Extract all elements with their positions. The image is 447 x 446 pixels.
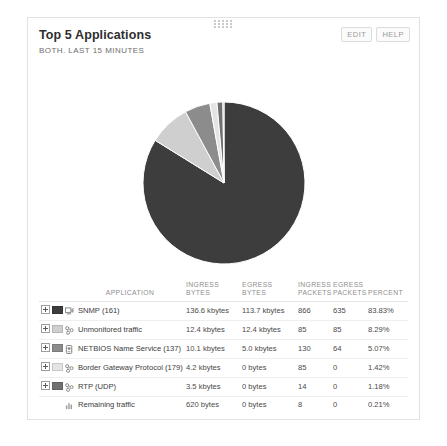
expand-icon[interactable] xyxy=(41,343,50,352)
row-egress-bytes: 12.4 kbytes xyxy=(240,321,296,340)
pie-chart[interactable] xyxy=(142,101,306,265)
row-application-name: SNMP (161) xyxy=(76,302,184,321)
table-row[interactable]: Remaining traffic620 bytes0 bytes800.21% xyxy=(39,397,408,414)
top-applications-widget: Top 5 Applications BOTH. LAST 15 MINUTES… xyxy=(27,17,420,420)
col-expander xyxy=(39,276,50,302)
row-application-name: NETBIOS Name Service (137) xyxy=(76,340,184,359)
row-egress-bytes: 0 bytes xyxy=(240,397,296,414)
col-header-percent[interactable]: PERCENT xyxy=(366,276,408,302)
row-color-swatch xyxy=(50,378,63,397)
row-egress-packets: 0 xyxy=(331,397,366,414)
row-expander-cell[interactable] xyxy=(39,302,50,321)
row-egress-bytes: 113.7 kbytes xyxy=(240,302,296,321)
col-icon xyxy=(63,276,76,302)
row-expander-cell xyxy=(39,397,50,414)
network-icon xyxy=(63,321,76,340)
table-body: SNMP (161)136.6 kbytes113.7 kbytes866635… xyxy=(39,302,408,414)
row-ingress-packets: 130 xyxy=(296,340,331,359)
row-percent: 0.21% xyxy=(366,397,408,414)
row-ingress-bytes: 136.6 kbytes xyxy=(184,302,240,321)
expand-icon[interactable] xyxy=(41,305,50,314)
row-ingress-bytes: 620 bytes xyxy=(184,397,240,414)
netbios-icon xyxy=(63,340,76,359)
edit-button[interactable]: EDIT xyxy=(341,27,372,42)
legend-swatch xyxy=(52,306,63,314)
network-icon xyxy=(65,326,74,335)
table-row[interactable]: NETBIOS Name Service (137)10.1 kbytes5.0… xyxy=(39,340,408,359)
row-color-swatch xyxy=(50,321,63,340)
legend-swatch xyxy=(52,382,63,390)
row-ingress-bytes: 12.4 kbytes xyxy=(184,321,240,340)
widget-header: Top 5 Applications BOTH. LAST 15 MINUTES… xyxy=(28,18,419,64)
row-ingress-packets: 85 xyxy=(296,359,331,378)
chart-area xyxy=(28,64,419,302)
row-ingress-bytes: 3.5 kbytes xyxy=(184,378,240,397)
table-header: APPLICATION INGRESS BYTES EGRESS BYTES I… xyxy=(39,276,408,302)
widget-subtitle: BOTH. LAST 15 MINUTES xyxy=(39,46,408,55)
row-percent: 5.07% xyxy=(366,340,408,359)
row-application-name: Unmonitored traffic xyxy=(76,321,184,340)
row-color-swatch xyxy=(50,340,63,359)
network-icon xyxy=(65,383,74,392)
row-color-swatch xyxy=(50,359,63,378)
header-actions: EDIT HELP xyxy=(341,27,410,42)
row-egress-bytes: 0 bytes xyxy=(240,378,296,397)
applications-table: APPLICATION INGRESS BYTES EGRESS BYTES I… xyxy=(39,276,408,413)
expand-icon[interactable] xyxy=(41,324,50,333)
row-application-name: RTP (UDP) xyxy=(76,378,184,397)
row-ingress-packets: 85 xyxy=(296,321,331,340)
netbios-icon xyxy=(65,345,74,354)
expand-icon[interactable] xyxy=(41,381,50,390)
row-expander-cell[interactable] xyxy=(39,321,50,340)
row-egress-packets: 64 xyxy=(331,340,366,359)
row-expander-cell[interactable] xyxy=(39,340,50,359)
network-icon xyxy=(63,378,76,397)
col-header-ingress-bytes[interactable]: INGRESS BYTES xyxy=(184,276,240,302)
row-ingress-packets: 866 xyxy=(296,302,331,321)
chart-bars-icon xyxy=(63,397,76,414)
table-row[interactable]: Border Gateway Protocol (179)4.2 kbytes0… xyxy=(39,359,408,378)
network-icon xyxy=(63,359,76,378)
table-header-row: APPLICATION INGRESS BYTES EGRESS BYTES I… xyxy=(39,276,408,302)
table-row[interactable]: SNMP (161)136.6 kbytes113.7 kbytes866635… xyxy=(39,302,408,321)
row-ingress-bytes: 4.2 kbytes xyxy=(184,359,240,378)
row-color-swatch xyxy=(50,302,63,321)
row-color-swatch xyxy=(50,397,63,414)
pie-chart-svg[interactable] xyxy=(142,101,306,265)
snmp-icon xyxy=(65,307,74,316)
col-swatch xyxy=(50,276,63,302)
col-header-ingress-packets[interactable]: INGRESS PACKETS xyxy=(296,276,331,302)
col-header-egress-bytes[interactable]: EGRESS BYTES xyxy=(240,276,296,302)
help-button[interactable]: HELP xyxy=(376,27,410,42)
row-egress-packets: 85 xyxy=(331,321,366,340)
row-egress-packets: 0 xyxy=(331,378,366,397)
row-ingress-packets: 14 xyxy=(296,378,331,397)
legend-swatch xyxy=(52,344,63,352)
row-application-name: Remaining traffic xyxy=(76,397,184,414)
row-percent: 1.18% xyxy=(366,378,408,397)
legend-swatch xyxy=(52,363,63,371)
row-expander-cell[interactable] xyxy=(39,378,50,397)
row-percent: 1.42% xyxy=(366,359,408,378)
applications-table-container: APPLICATION INGRESS BYTES EGRESS BYTES I… xyxy=(28,276,419,419)
row-egress-packets: 0 xyxy=(331,359,366,378)
row-application-name: Border Gateway Protocol (179) xyxy=(76,359,184,378)
table-row[interactable]: RTP (UDP)3.5 kbytes0 bytes1401.18% xyxy=(39,378,408,397)
expand-icon[interactable] xyxy=(41,362,50,371)
row-egress-bytes: 0 bytes xyxy=(240,359,296,378)
row-expander-cell[interactable] xyxy=(39,359,50,378)
row-percent: 8.29% xyxy=(366,321,408,340)
row-ingress-packets: 8 xyxy=(296,397,331,414)
snmp-icon xyxy=(63,302,76,321)
legend-swatch xyxy=(52,325,63,333)
table-row[interactable]: Unmonitored traffic12.4 kbytes12.4 kbyte… xyxy=(39,321,408,340)
row-egress-bytes: 5.0 kbytes xyxy=(240,340,296,359)
chart-bars-icon xyxy=(65,401,74,410)
row-percent: 83.83% xyxy=(366,302,408,321)
network-icon xyxy=(65,364,74,373)
col-header-application[interactable]: APPLICATION xyxy=(76,276,184,302)
row-egress-packets: 635 xyxy=(331,302,366,321)
row-ingress-bytes: 10.1 kbytes xyxy=(184,340,240,359)
col-header-egress-packets[interactable]: EGRESS PACKETS xyxy=(331,276,366,302)
